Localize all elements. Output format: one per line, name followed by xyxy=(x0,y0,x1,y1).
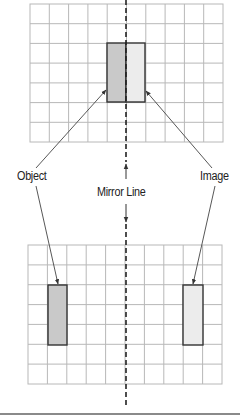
reflection-diagram xyxy=(0,0,240,418)
top-object-rectangle xyxy=(107,43,126,102)
object-arrow-up-icon xyxy=(36,90,106,168)
top-image-rectangle xyxy=(126,43,145,102)
mirror-line-label: Mirror Line xyxy=(96,185,146,199)
image-label: Image xyxy=(200,169,229,183)
image-arrow-down-icon xyxy=(193,186,215,284)
object-label: Object xyxy=(17,169,47,183)
bottom-object-rectangle xyxy=(48,285,67,345)
bottom-image-rectangle xyxy=(183,285,203,345)
bottom-divider xyxy=(0,413,240,415)
